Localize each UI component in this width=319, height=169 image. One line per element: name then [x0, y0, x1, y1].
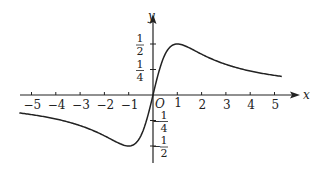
x-tick-label: 1: [174, 96, 182, 110]
x-tick-label: −3: [72, 98, 90, 112]
svg-text:1: 1: [161, 134, 168, 147]
svg-text:4: 4: [161, 122, 168, 135]
x-tick-label: 4: [247, 98, 255, 112]
y-tick-label: −14: [152, 109, 168, 135]
svg-text:1: 1: [137, 32, 144, 45]
y-tick-label: 14: [136, 58, 144, 84]
x-tick-label: −4: [48, 98, 66, 112]
svg-text:2: 2: [137, 45, 144, 58]
x-tick-label: −1: [121, 98, 139, 112]
y-tick-label: −12: [152, 134, 168, 160]
svg-text:2: 2: [161, 147, 168, 160]
y-tick-label: 12: [136, 32, 144, 58]
x-tick-label: −2: [96, 98, 114, 112]
x-tick-label: 3: [223, 98, 231, 112]
function-graph: −5−4−3−2−112345 1214−14−12 x y O: [0, 0, 319, 169]
svg-text:4: 4: [137, 71, 144, 84]
x-tick-label: −5: [24, 98, 42, 112]
x-tick-label: 2: [199, 98, 207, 112]
svg-text:1: 1: [137, 58, 144, 71]
y-axis-label: y: [147, 9, 155, 23]
x-tick-label: 5: [272, 98, 280, 112]
origin-label: O: [155, 97, 165, 111]
x-axis-label: x: [303, 88, 310, 102]
